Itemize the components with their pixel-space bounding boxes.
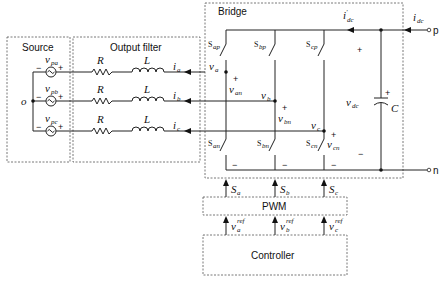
arrow-up-icon	[272, 216, 278, 223]
svg-text:S: S	[306, 139, 310, 148]
svg-text:i: i	[413, 11, 416, 23]
svg-text:+: +	[357, 45, 362, 55]
svg-text:S: S	[254, 40, 258, 49]
current-arrow-icon	[184, 128, 191, 134]
svg-text:−: −	[36, 92, 41, 102]
sine-icon	[48, 100, 55, 103]
current-arrow-icon	[184, 98, 191, 104]
bridge-block-label: Bridge	[218, 6, 247, 17]
svg-text:+: +	[58, 63, 63, 73]
controller-block-label: Controller	[251, 250, 295, 261]
svg-text:v: v	[229, 83, 234, 95]
svg-text:ref: ref	[286, 217, 295, 225]
svg-text:′: ′	[346, 8, 348, 16]
pwm-block-label: PWM	[262, 201, 286, 212]
switch-cn-icon	[318, 139, 324, 151]
svg-text:an: an	[235, 89, 243, 97]
arrow-up-icon	[321, 179, 327, 186]
svg-text:L: L	[143, 54, 150, 66]
svg-text:v: v	[45, 112, 50, 124]
svg-text:cp: cp	[311, 43, 318, 51]
svg-text:−: −	[358, 149, 363, 159]
switch-ap-icon	[220, 44, 226, 56]
svg-text:v: v	[45, 53, 50, 65]
svg-text:v: v	[327, 138, 332, 150]
svg-text:c: c	[177, 125, 181, 133]
arrow-up-icon	[223, 216, 229, 223]
svg-text:+: +	[58, 122, 63, 132]
current-arrow-icon	[404, 27, 411, 33]
svg-text:p: p	[433, 25, 439, 36]
svg-text:a: a	[177, 66, 181, 74]
svg-text:b: b	[267, 95, 271, 103]
svg-text:a: a	[237, 189, 241, 197]
svg-text:b: b	[177, 95, 181, 103]
svg-text:v: v	[329, 220, 334, 232]
svg-text:cn: cn	[333, 144, 340, 152]
svg-text:b: b	[286, 226, 290, 234]
inverter-schematic: Source Output filter Bridge PWM Controll…	[0, 0, 445, 284]
gating-signals: S a S b S c	[223, 179, 339, 197]
svg-text:n: n	[433, 165, 439, 176]
sine-icon	[48, 71, 55, 74]
svg-text:i: i	[173, 89, 176, 101]
sine-icon	[48, 130, 55, 133]
svg-text:−: −	[36, 63, 41, 73]
svg-text:v: v	[209, 60, 214, 72]
svg-text:v: v	[231, 220, 236, 232]
arrow-up-icon	[272, 179, 278, 186]
svg-text:c: c	[317, 125, 321, 133]
terminal-p-icon	[427, 28, 431, 32]
svg-text:c: c	[335, 226, 339, 234]
svg-text:−: −	[331, 160, 336, 170]
svg-text:R: R	[96, 83, 104, 95]
svg-text:cn: cn	[311, 142, 318, 150]
arrow-up-icon	[321, 216, 327, 223]
svg-text:v: v	[311, 119, 316, 131]
output-filter-block-label: Output filter	[110, 42, 162, 53]
bridge-leg-a: S ap S an v a + v an −	[208, 30, 243, 170]
current-arrow-icon	[184, 69, 191, 75]
svg-text:C: C	[391, 102, 399, 114]
svg-text:bn: bn	[284, 118, 292, 126]
svg-text:i: i	[173, 60, 176, 72]
svg-text:v: v	[45, 82, 50, 94]
svg-text:i: i	[173, 119, 176, 131]
svg-text:a: a	[215, 66, 219, 74]
svg-text:S: S	[208, 40, 212, 49]
switch-bn-icon	[269, 139, 275, 151]
filter-phase-b: R L i b	[92, 83, 191, 105]
svg-text:v: v	[261, 89, 266, 101]
arrow-up-icon	[223, 179, 229, 186]
svg-text:ap: ap	[213, 43, 221, 51]
svg-text:b: b	[286, 189, 290, 197]
svg-text:dc: dc	[347, 16, 355, 24]
svg-text:L: L	[143, 113, 150, 125]
svg-text:dc: dc	[352, 102, 360, 110]
svg-text:S: S	[208, 139, 212, 148]
svg-text:bp: bp	[259, 43, 267, 51]
svg-text:+: +	[58, 92, 63, 102]
reference-signals: v a ref v b ref v c ref	[223, 216, 344, 235]
bridge-leg-c: S cp S cn v c + v cn −	[306, 30, 340, 170]
switch-an-icon	[220, 139, 226, 151]
svg-text:dc: dc	[417, 17, 425, 25]
terminal-n-icon	[427, 168, 431, 172]
svg-text:−: −	[232, 160, 237, 170]
svg-text:R: R	[96, 113, 104, 125]
svg-text:−: −	[36, 122, 41, 132]
bridge-leg-b: S bp S bn v b + v bn −	[254, 30, 292, 170]
svg-text:bn: bn	[262, 142, 270, 150]
svg-text:+: +	[385, 88, 390, 98]
svg-text:a: a	[237, 226, 241, 234]
dc-link: + C v dc + − i ′ dc	[343, 8, 399, 172]
svg-text:L: L	[143, 83, 150, 95]
neutral-label: o	[21, 95, 27, 107]
current-arrow-icon	[347, 27, 354, 33]
svg-text:an: an	[213, 142, 221, 150]
switch-bp-icon	[269, 44, 275, 56]
svg-text:−: −	[282, 160, 287, 170]
svg-text:R: R	[96, 54, 104, 66]
svg-text:v: v	[280, 220, 285, 232]
svg-text:v: v	[278, 112, 283, 124]
